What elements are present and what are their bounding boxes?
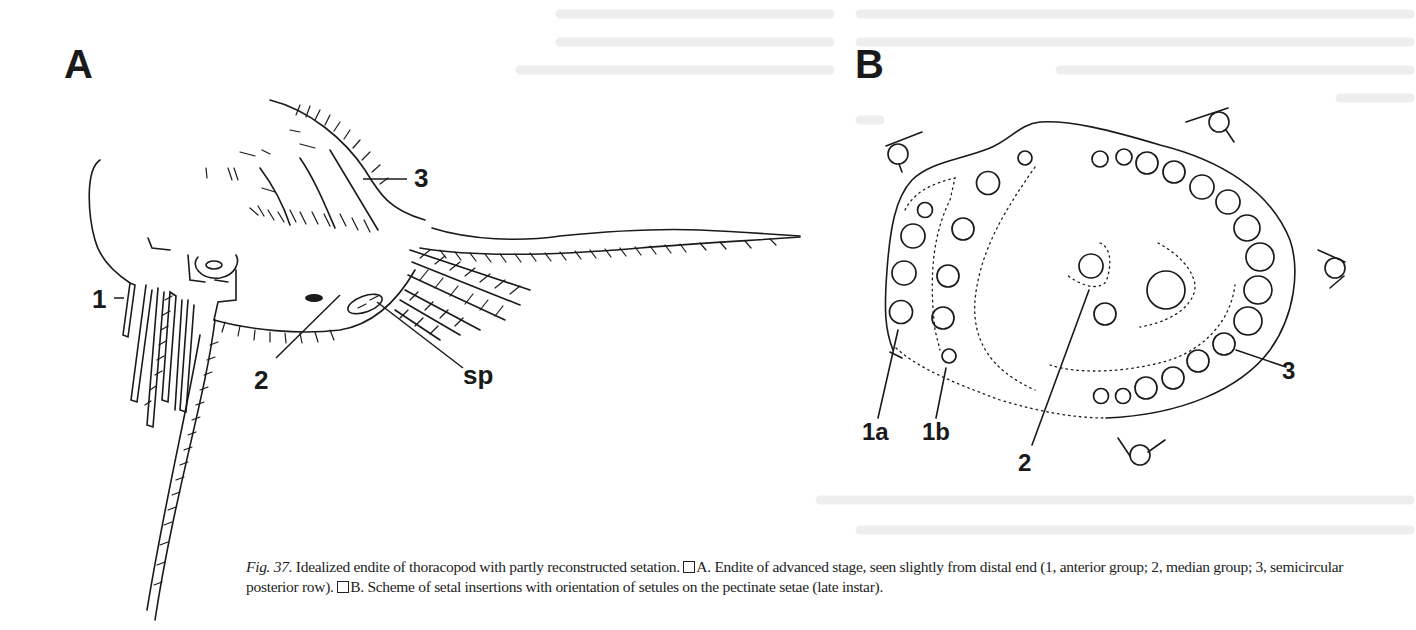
figure-caption: Fig. 37. Idealized endite of thoracopod … [246, 557, 1346, 596]
figure-number: Fig. 37. [246, 558, 292, 575]
label-b-1b-anterior: 1b [922, 420, 950, 444]
caption-part-b-text: Scheme of setal insertions with orientat… [367, 578, 883, 595]
caption-part-b-marker: B. [350, 578, 364, 595]
panel-b-setal-insertion-scheme [0, 0, 1416, 630]
caption-part-a-marker: A. [696, 558, 710, 575]
label-b-3-posterior: 3 [1282, 359, 1295, 383]
square-marker-icon [683, 561, 695, 573]
label-b-2-median: 2 [1018, 451, 1031, 475]
label-b-1a-anterior: 1a [862, 420, 889, 444]
caption-title: Idealized endite of thoracopod with part… [296, 558, 680, 575]
setule-orientation-marker-upper-left [886, 132, 922, 172]
setule-orientation-marker-bottom [1118, 438, 1165, 465]
setule-orientation-marker-top [1186, 108, 1234, 142]
setule-orientation-marker-right [1318, 250, 1345, 288]
square-marker-icon [337, 581, 349, 593]
